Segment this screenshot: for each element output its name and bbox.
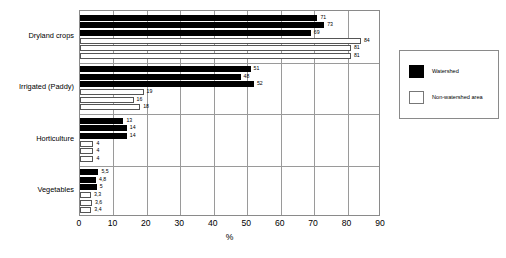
bar-watershed-2-2[interactable] xyxy=(80,133,127,139)
bar-row: 52 xyxy=(80,81,379,87)
bar-non-watershed-area-0-2[interactable] xyxy=(80,53,351,59)
bar-watershed-1-1[interactable] xyxy=(80,74,241,80)
bar-value-label: 3,3 xyxy=(94,192,101,197)
bar-non-watershed-area-1-2[interactable] xyxy=(80,104,140,110)
bar-watershed-0-0[interactable] xyxy=(80,15,317,21)
bar-value-label: 16 xyxy=(137,97,143,102)
category-separator-3 xyxy=(80,166,379,167)
bar-watershed-0-2[interactable] xyxy=(80,30,311,36)
x-tick-label-10: 10 xyxy=(108,219,118,228)
bar-row: 4 xyxy=(80,156,379,162)
y-category-label-horticulture: Horticulture xyxy=(36,135,74,142)
category-separator-1 xyxy=(80,63,379,64)
bar-non-watershed-area-3-1[interactable] xyxy=(80,200,92,206)
bar-row: 4,8 xyxy=(80,177,379,183)
bar-row: 16 xyxy=(80,97,379,103)
bar-non-watershed-area-0-0[interactable] xyxy=(80,38,361,44)
bar-value-label: 71 xyxy=(320,15,326,20)
bar-value-label: 81 xyxy=(354,46,360,51)
legend-label-non-watershed-area: Non-watershed area xyxy=(432,95,483,101)
bar-row: 69 xyxy=(80,30,379,36)
bar-value-label: 19 xyxy=(147,89,153,94)
bar-row: 19 xyxy=(80,89,379,95)
bar-row: 3,3 xyxy=(80,192,379,198)
x-axis-title: % xyxy=(79,233,380,242)
bar-value-label: 4 xyxy=(96,156,99,161)
bar-value-label: 4,8 xyxy=(99,177,106,182)
bar-row: 14 xyxy=(80,125,379,131)
x-tick-label-30: 30 xyxy=(175,219,185,228)
bar-non-watershed-area-3-0[interactable] xyxy=(80,192,91,198)
bar-value-label: 18 xyxy=(143,105,149,110)
bar-value-label: 3,6 xyxy=(95,200,102,205)
bar-non-watershed-area-3-2[interactable] xyxy=(80,207,91,213)
legend-swatch-white-square xyxy=(409,91,424,104)
bar-watershed-3-1[interactable] xyxy=(80,177,96,183)
bar-row: 48 xyxy=(80,74,379,80)
bar-non-watershed-area-1-0[interactable] xyxy=(80,89,144,95)
x-axis-tick-labels: 0102030405060708090 xyxy=(79,219,380,233)
y-axis-category-labels: Dryland cropsIrrigated (Paddy)Horticultu… xyxy=(0,10,74,216)
chart-figure: 7173698481815148521916181314144445,54,85… xyxy=(0,0,506,258)
bar-row: 14 xyxy=(80,133,379,139)
bar-row: 71 xyxy=(80,15,379,21)
bar-row: 3,6 xyxy=(80,200,379,206)
bar-watershed-3-2[interactable] xyxy=(80,184,97,190)
bar-value-label: 73 xyxy=(327,23,333,28)
x-tick-label-90: 90 xyxy=(375,219,385,228)
bar-watershed-0-1[interactable] xyxy=(80,22,324,28)
bar-row: 81 xyxy=(80,45,379,51)
bar-watershed-2-1[interactable] xyxy=(80,125,127,131)
bar-watershed-2-0[interactable] xyxy=(80,118,123,124)
bar-value-label: 5,5 xyxy=(101,170,108,175)
bar-value-label: 52 xyxy=(257,82,263,87)
category-separator-2 xyxy=(80,114,379,115)
bar-non-watershed-area-2-2[interactable] xyxy=(80,156,93,162)
x-tick-label-50: 50 xyxy=(241,219,251,228)
bar-row: 73 xyxy=(80,22,379,28)
plot-area: 7173698481815148521916181314144445,54,85… xyxy=(79,10,380,216)
bar-watershed-1-0[interactable] xyxy=(80,66,251,72)
bar-non-watershed-area-2-1[interactable] xyxy=(80,148,93,154)
bar-row: 81 xyxy=(80,53,379,59)
bar-row: 18 xyxy=(80,104,379,110)
legend-swatch-black-square xyxy=(409,65,424,78)
bar-row: 51 xyxy=(80,66,379,72)
bar-non-watershed-area-2-0[interactable] xyxy=(80,141,93,147)
y-category-label-irrigated-paddy: Irrigated (Paddy) xyxy=(19,83,74,90)
bar-value-label: 84 xyxy=(364,38,370,43)
x-tick-label-80: 80 xyxy=(342,219,352,228)
x-tick-label-70: 70 xyxy=(308,219,318,228)
bar-watershed-1-2[interactable] xyxy=(80,81,254,87)
bar-value-label: 81 xyxy=(354,53,360,58)
bar-value-label: 4 xyxy=(96,141,99,146)
bar-row: 5 xyxy=(80,184,379,190)
bar-non-watershed-area-0-1[interactable] xyxy=(80,45,351,51)
bar-value-label: 13 xyxy=(126,118,132,123)
legend-item-watershed: Watershed xyxy=(409,65,459,78)
bar-value-label: 4 xyxy=(96,149,99,154)
bar-value-label: 51 xyxy=(254,67,260,72)
bar-watershed-3-0[interactable] xyxy=(80,169,98,175)
x-tick-label-40: 40 xyxy=(208,219,218,228)
legend-label-watershed: Watershed xyxy=(432,69,459,75)
bar-value-label: 3,4 xyxy=(94,208,101,213)
x-tick-label-60: 60 xyxy=(275,219,285,228)
x-tick-label-20: 20 xyxy=(141,219,151,228)
bar-value-label: 48 xyxy=(244,74,250,79)
bar-row: 5,5 xyxy=(80,169,379,175)
bar-row: 84 xyxy=(80,38,379,44)
y-category-label-vegetables: Vegetables xyxy=(37,186,74,193)
bar-row: 3,4 xyxy=(80,207,379,213)
x-tick-label-0: 0 xyxy=(77,219,82,228)
bar-row: 4 xyxy=(80,148,379,154)
bar-value-label: 14 xyxy=(130,126,136,131)
bar-value-label: 69 xyxy=(314,30,320,35)
y-category-label-dryland-crops: Dryland crops xyxy=(28,32,74,39)
bar-row: 4 xyxy=(80,141,379,147)
legend-item-non-watershed-area: Non-watershed area xyxy=(409,91,483,104)
bar-row: 13 xyxy=(80,118,379,124)
chart-legend: Watershed Non-watershed area xyxy=(399,50,499,119)
bar-non-watershed-area-1-1[interactable] xyxy=(80,97,134,103)
bar-value-label: 5 xyxy=(100,185,103,190)
